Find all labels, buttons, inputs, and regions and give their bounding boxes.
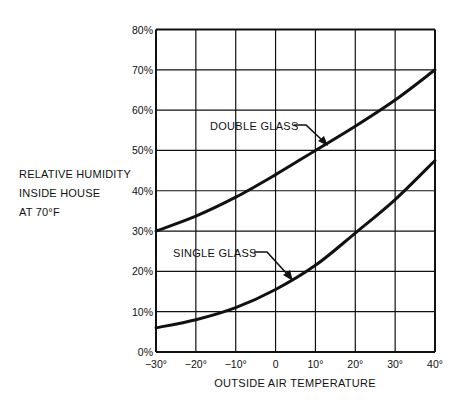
x-axis-ticks: −30°−20°−10°010°20°30°40° <box>145 358 443 370</box>
x-tick-label: −10° <box>225 358 247 370</box>
x-tick-label: 40° <box>427 358 443 370</box>
chart-grid <box>156 30 435 353</box>
y-tick-label: 0% <box>138 346 153 358</box>
x-tick-label: 20° <box>347 358 363 370</box>
y-tick-label: 80% <box>132 24 153 36</box>
y-tick-label: 50% <box>132 144 153 156</box>
y-tick-label: 30% <box>132 225 153 237</box>
single-glass-curve <box>156 161 435 328</box>
x-tick-label: 10° <box>307 358 323 370</box>
chart-series <box>156 70 435 328</box>
single-glass-label: SINGLE GLASS <box>173 247 257 259</box>
y-axis-ticks: 0%10%20%30%40%50%60%70%80% <box>132 24 153 359</box>
x-axis-label: OUTSIDE AIR TEMPERATURE <box>214 377 376 389</box>
y-tick-label: 10% <box>132 306 153 318</box>
x-tick-label: −30° <box>145 358 167 370</box>
x-tick-label: −20° <box>185 358 207 370</box>
x-tick-label: 0 <box>273 358 279 370</box>
y-tick-label: 40% <box>132 185 153 197</box>
y-tick-label: 20% <box>132 265 153 277</box>
humidity-chart: 0%10%20%30%40%50%60%70%80% −30°−20°−10°0… <box>0 0 466 411</box>
x-tick-label: 30° <box>387 358 403 370</box>
double-glass-label: DOUBLE GLASS <box>210 120 299 132</box>
y-tick-label: 60% <box>132 104 153 116</box>
y-tick-label: 70% <box>132 64 153 76</box>
